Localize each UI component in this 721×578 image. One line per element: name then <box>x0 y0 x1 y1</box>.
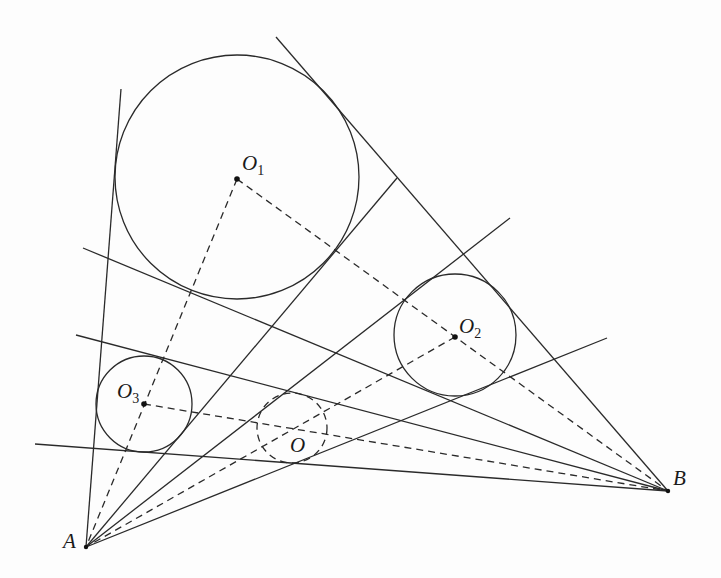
point-a <box>84 545 88 549</box>
label-b: B <box>673 466 686 490</box>
point-o3 <box>141 401 147 407</box>
line-a-left-tangent <box>86 89 121 547</box>
label-o1: O1 <box>242 151 264 178</box>
label-o2: O2 <box>459 314 481 341</box>
line-a-tangent-o2-lower <box>86 338 607 547</box>
point-b <box>666 489 670 493</box>
line-a-tangent-o1-o3 <box>86 178 397 547</box>
label-a: A <box>61 529 76 553</box>
geometry-diagram: O1 O2 O3 O A B <box>0 0 721 578</box>
label-o: O <box>290 433 305 457</box>
point-o2 <box>452 334 458 340</box>
line-a-tangent-o2 <box>86 218 510 547</box>
label-o3: O3 <box>117 379 139 406</box>
dashed-o1-a <box>86 179 237 547</box>
point-o1 <box>234 176 240 182</box>
dashed-o3-b <box>144 404 668 491</box>
line-b-top-tangent <box>276 37 668 491</box>
line-b-tangent-o3 <box>76 335 668 491</box>
dashed-o2-a <box>86 337 455 547</box>
